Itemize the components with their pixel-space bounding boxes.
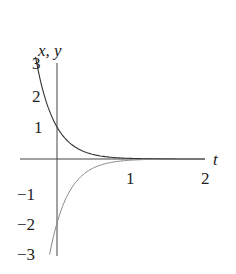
y-tick-neg1: −1 xyxy=(17,186,35,203)
plot-area xyxy=(0,0,236,274)
x-tick-1: 1 xyxy=(126,170,135,187)
y-axis-label: x, y xyxy=(38,42,62,59)
y-tick-neg3: −3 xyxy=(17,246,35,263)
x-axis-label: t xyxy=(213,151,218,168)
y-tick-neg2: −2 xyxy=(17,216,35,233)
y-tick-3: 3 xyxy=(32,55,41,72)
series-x-curve xyxy=(36,57,206,159)
x-tick-2: 2 xyxy=(201,170,210,187)
y-tick-1: 1 xyxy=(34,119,43,136)
y-tick-2: 2 xyxy=(32,88,41,105)
